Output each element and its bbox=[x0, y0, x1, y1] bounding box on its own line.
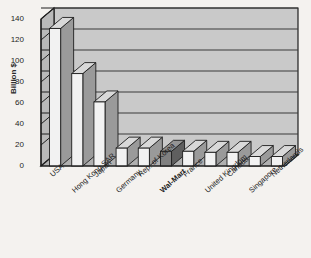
y-tick-label: 40 bbox=[0, 119, 24, 128]
bar-2 bbox=[72, 63, 96, 166]
plot-area bbox=[30, 6, 302, 202]
y-tick-label: 80 bbox=[0, 77, 24, 86]
y-tick-label: 60 bbox=[0, 98, 24, 107]
chart-figure: Billion $ 020406080100120140 USAHong Kon… bbox=[0, 0, 311, 258]
y-tick-label: 0 bbox=[0, 161, 24, 170]
y-tick-label: 120 bbox=[0, 35, 24, 44]
y-tick-label: 20 bbox=[0, 140, 24, 149]
y-tick-label: 100 bbox=[0, 56, 24, 65]
chart-canvas bbox=[30, 6, 302, 202]
y-tick-label: 140 bbox=[0, 14, 24, 23]
bar-1 bbox=[50, 17, 74, 166]
